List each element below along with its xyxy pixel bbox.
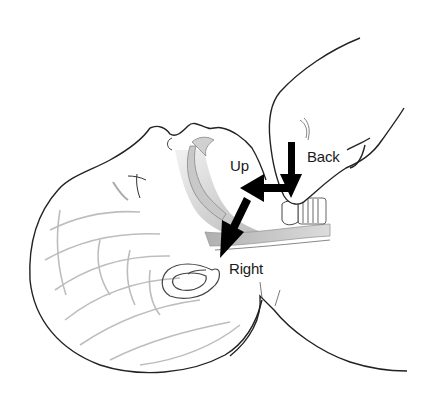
laryngeal-pressure-illustration	[0, 0, 429, 396]
label-right: Right	[229, 261, 263, 276]
label-back: Back	[307, 149, 340, 164]
label-up: Up	[230, 158, 249, 173]
